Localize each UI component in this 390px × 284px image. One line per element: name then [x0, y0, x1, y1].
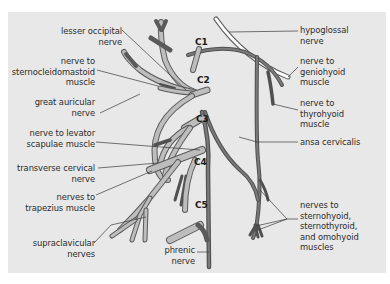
- level-label-c3: C3: [196, 114, 209, 124]
- label-ansa-cervicalis: ansa cervicalis: [300, 137, 360, 148]
- label-transverse-cervical-nerve: transverse cervical nerve: [17, 163, 95, 184]
- label-nerves-to-trapezius: nerves to trapezius muscle: [25, 192, 95, 213]
- label-nerve-to-thyrohyoid: nerve to thyrohyoid muscle: [300, 98, 344, 130]
- label-great-auricular-nerve: great auricular nerve: [35, 97, 95, 118]
- level-label-c1: C1: [195, 37, 208, 47]
- label-phrenic-nerve: phrenic nerve: [164, 245, 195, 266]
- label-hypoglossal-nerve: hypoglossal nerve: [300, 25, 349, 46]
- level-label-c2: C2: [197, 75, 210, 85]
- label-lesser-occipital-nerve: lesser occipital nerve: [61, 26, 122, 47]
- label-nerve-to-geniohyoid: nerve to geniohyoid muscle: [300, 56, 345, 88]
- level-label-c5: C5: [195, 200, 208, 210]
- level-label-c4: C4: [194, 157, 207, 167]
- label-nerves-to-infrahyoid-muscles: nerves to sternohyoid, sternothyroid, an…: [300, 200, 359, 253]
- label-supraclavicular-nerves: supraclavicular nerves: [33, 238, 95, 259]
- label-nerve-to-sternocleidomastoid: nerve to sternocleidomastoid muscle: [12, 56, 95, 88]
- label-nerve-to-levator-scapulae: nerve to levator scapulae muscle: [27, 128, 95, 149]
